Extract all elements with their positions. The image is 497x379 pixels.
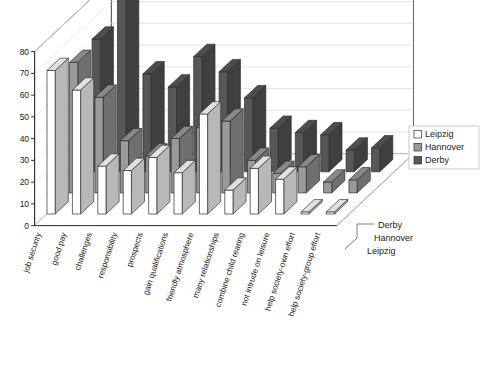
category-label: responsibility bbox=[96, 231, 119, 280]
bar bbox=[72, 78, 93, 214]
depth-axis-label: Derby bbox=[378, 220, 403, 230]
legend-label: Hannover bbox=[425, 142, 464, 152]
category-label: gain qualifications bbox=[141, 231, 170, 296]
depth-axis-label: Leipzig bbox=[367, 246, 396, 256]
category-label: good pay bbox=[49, 231, 68, 267]
y-axis-tick-label: 40 bbox=[20, 134, 30, 144]
bar bbox=[98, 154, 119, 214]
y-axis-tick-label: 30 bbox=[20, 155, 30, 165]
legend-label: Derby bbox=[425, 155, 450, 165]
bar bbox=[199, 102, 220, 214]
y-axis-tick-label: 70 bbox=[20, 68, 30, 78]
legend-item[interactable]: Derby bbox=[414, 155, 450, 165]
y-axis-tick-label: 20 bbox=[20, 177, 30, 187]
y-axis-tick-label: 80 bbox=[20, 47, 30, 57]
bar bbox=[149, 145, 170, 214]
bar bbox=[47, 58, 68, 214]
y-axis-tick-label: 60 bbox=[20, 90, 30, 100]
legend-item[interactable]: Hannover bbox=[414, 142, 464, 152]
chart-container: 01020304050607080 job securitygood paych… bbox=[0, 0, 497, 379]
y-axis-tick-label: 10 bbox=[20, 199, 30, 209]
legend-item[interactable]: Leipzig bbox=[414, 129, 454, 139]
depth-axis-label: Hannover bbox=[374, 233, 413, 243]
category-label: job security bbox=[21, 231, 43, 275]
depth-axis-labels: DerbyHannoverLeipzig bbox=[345, 220, 413, 256]
category-label: challenges bbox=[73, 231, 94, 271]
category-label: prospects bbox=[125, 231, 145, 268]
category-label: friendly atmosphere bbox=[165, 231, 196, 303]
y-axis-tick-label: 0 bbox=[24, 221, 29, 231]
category-axis-labels: job securitygood paychallengesresponsibi… bbox=[21, 231, 322, 318]
y-axis: 01020304050607080 bbox=[20, 47, 35, 231]
bar-chart-3d: 01020304050607080 job securitygood paych… bbox=[0, 0, 497, 379]
category-label: many relationships bbox=[191, 231, 221, 299]
y-axis-tick-label: 50 bbox=[20, 112, 30, 122]
chart-legend: LeipzigHannoverDerby bbox=[409, 126, 479, 169]
legend-label: Leipzig bbox=[425, 129, 454, 139]
